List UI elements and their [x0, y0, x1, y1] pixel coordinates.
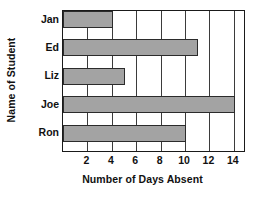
- bar-jan: [63, 11, 113, 28]
- gridline: [209, 11, 210, 151]
- bar-joe: [63, 96, 235, 113]
- x-axis-tick-labels: 2468101214: [62, 153, 245, 167]
- x-axis-title: Number of Days Absent: [40, 173, 245, 185]
- y-tick-label-joe: Joe: [41, 97, 59, 111]
- x-tick-label-14: 14: [221, 153, 245, 167]
- bar-ron: [63, 125, 186, 142]
- bar-chart: Name of Student JanEdLizJoeRon 246810121…: [0, 0, 258, 197]
- x-tick-label-12: 12: [196, 153, 220, 167]
- gridline: [234, 11, 235, 151]
- x-tick-label-2: 2: [74, 153, 98, 167]
- y-tick-label-ron: Ron: [39, 125, 59, 139]
- y-tick-label-jan: Jan: [41, 12, 59, 26]
- bar-ed: [63, 39, 198, 56]
- plot-area: [62, 10, 245, 152]
- y-axis-tick-labels: JanEdLizJoeRon: [22, 10, 61, 152]
- y-tick-label-liz: Liz: [44, 68, 59, 82]
- x-tick-label-6: 6: [123, 153, 147, 167]
- x-tick-label-10: 10: [172, 153, 196, 167]
- x-tick-label-8: 8: [148, 153, 172, 167]
- bar-liz: [63, 68, 125, 85]
- y-tick-label-ed: Ed: [46, 40, 59, 54]
- y-axis-title-text: Name of Student: [5, 38, 17, 123]
- x-tick-label-4: 4: [99, 153, 123, 167]
- plot-inner: [63, 11, 244, 151]
- y-axis-title: Name of Student: [0, 0, 22, 160]
